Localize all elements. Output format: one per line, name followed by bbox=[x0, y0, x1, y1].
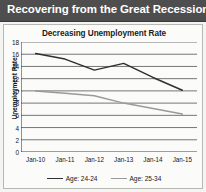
y-tick-label: 2 bbox=[3, 136, 19, 143]
y-tick-label: 16 bbox=[3, 51, 19, 58]
legend-swatch bbox=[111, 178, 127, 180]
x-tick-label: Jan-11 bbox=[56, 156, 75, 163]
legend-label: Age: 24-24 bbox=[66, 175, 98, 182]
x-tick-label: Jan-12 bbox=[85, 156, 104, 163]
y-tick-label: 4 bbox=[3, 124, 19, 131]
y-tick-label: 0 bbox=[3, 149, 19, 156]
unemployment-chart-screenshot: Recovering from the Great Recession Decr… bbox=[0, 0, 206, 192]
chart-panel: Decreasing Unemployment Rate Unemploymen… bbox=[3, 24, 203, 189]
series-line bbox=[36, 91, 183, 114]
y-tick-label: 8 bbox=[3, 100, 19, 107]
x-tick-label: Jan-13 bbox=[114, 156, 133, 163]
legend-swatch bbox=[47, 178, 63, 180]
legend-item[interactable]: Age: 24-24 bbox=[47, 175, 98, 182]
page-title: Recovering from the Great Recession bbox=[7, 3, 206, 15]
plot-area: 024681012141618 Jan-10Jan-11Jan-12Jan-13… bbox=[21, 42, 197, 152]
header-bar: Recovering from the Great Recession bbox=[0, 0, 206, 22]
line-chart-svg bbox=[21, 42, 197, 152]
legend-label: Age: 25-34 bbox=[130, 175, 162, 182]
legend: Age: 24-24Age: 25-34 bbox=[4, 175, 204, 182]
y-tick-label: 10 bbox=[3, 87, 19, 94]
series-lines bbox=[36, 54, 183, 115]
x-tick-label: Jan-14 bbox=[143, 156, 162, 163]
y-tick-label: 14 bbox=[3, 63, 19, 70]
y-tick-label: 6 bbox=[3, 112, 19, 119]
y-tick-label: 12 bbox=[3, 75, 19, 82]
series-line bbox=[36, 54, 183, 91]
chart-title: Decreasing Unemployment Rate bbox=[4, 29, 204, 38]
x-tick-label: Jan-15 bbox=[173, 156, 192, 163]
legend-item[interactable]: Age: 25-34 bbox=[111, 175, 162, 182]
gridlines bbox=[21, 42, 197, 152]
x-tick-label: Jan-10 bbox=[26, 156, 45, 163]
y-tick-label: 18 bbox=[3, 39, 19, 46]
